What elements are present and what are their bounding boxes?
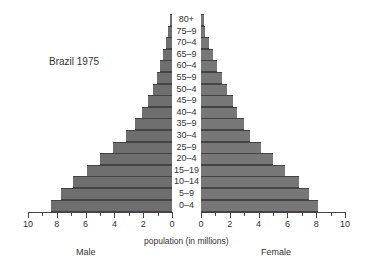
female-axis-tick xyxy=(345,212,346,218)
female-axis-tick xyxy=(316,212,317,218)
female-bar xyxy=(201,165,285,177)
age-group-label: 70–4 xyxy=(172,37,201,49)
female-axis-tick xyxy=(287,212,288,218)
age-group-label: 50–4 xyxy=(172,84,201,96)
age-group-label: 35–9 xyxy=(172,118,201,130)
female-tick-label: 4 xyxy=(249,219,269,229)
age-group-label: 80+ xyxy=(172,14,201,26)
male-axis-tick xyxy=(129,212,130,216)
female-axis-tick xyxy=(201,212,202,218)
male-bar xyxy=(87,165,172,177)
male-bar xyxy=(142,107,172,119)
male-bar xyxy=(148,95,172,107)
male-tick-label: 6 xyxy=(76,219,96,229)
female-bar xyxy=(201,142,261,154)
age-group-label: 10–14 xyxy=(172,176,201,188)
x-axis-label: population (in millions) xyxy=(144,236,229,246)
age-group-label: 25–9 xyxy=(172,142,201,154)
female-bar xyxy=(201,14,204,26)
female-bar xyxy=(201,188,309,200)
age-group-label: 30–4 xyxy=(172,130,201,142)
male-bar xyxy=(163,49,172,61)
female-tick-label: 2 xyxy=(220,219,240,229)
female-axis-tick xyxy=(273,212,274,216)
female-axis-tick xyxy=(331,212,332,216)
female-bar xyxy=(201,49,213,61)
male-axis-tick xyxy=(71,212,72,216)
female-bar xyxy=(201,84,227,96)
male-bar xyxy=(126,130,172,142)
male-tick-label: 2 xyxy=(133,219,153,229)
female-bar xyxy=(201,176,299,188)
age-group-label: 45–9 xyxy=(172,95,201,107)
male-axis-tick xyxy=(100,212,101,216)
age-group-label: 55–9 xyxy=(172,72,201,84)
chart-title: Brazil 1975 xyxy=(49,56,99,67)
male-tick-label: 8 xyxy=(47,219,67,229)
male-bar xyxy=(157,72,172,84)
male-label: Male xyxy=(76,247,96,257)
female-bar xyxy=(201,60,217,72)
female-bar xyxy=(201,95,233,107)
age-group-label: 20–4 xyxy=(172,153,201,165)
male-tick-label: 0 xyxy=(162,219,182,229)
male-axis-tick xyxy=(172,212,173,218)
female-axis-tick xyxy=(244,212,245,216)
female-bar xyxy=(201,153,273,165)
female-bar xyxy=(201,37,209,49)
age-group-label: 15–19 xyxy=(172,165,201,177)
male-axis-tick xyxy=(143,212,144,218)
male-axis-tick xyxy=(158,212,159,216)
age-group-label: 0–4 xyxy=(172,200,201,212)
male-tick-label: 10 xyxy=(18,219,38,229)
female-tick-label: 6 xyxy=(277,219,297,229)
male-bar xyxy=(61,188,172,200)
female-tick-label: 0 xyxy=(191,219,211,229)
female-axis-tick xyxy=(230,212,231,218)
female-tick-label: 10 xyxy=(335,219,355,229)
male-bar xyxy=(73,176,172,188)
male-bar xyxy=(113,142,172,154)
male-axis-tick xyxy=(114,212,115,218)
age-group-label: 5–9 xyxy=(172,188,201,200)
male-bar xyxy=(100,153,172,165)
female-axis-tick xyxy=(302,212,303,216)
male-axis-tick xyxy=(42,212,43,216)
male-bar xyxy=(153,84,172,96)
female-bar xyxy=(201,118,244,130)
female-bar xyxy=(201,72,222,84)
female-axis-tick xyxy=(215,212,216,216)
male-bar xyxy=(160,60,172,72)
male-axis-tick xyxy=(57,212,58,218)
age-group-label: 75–9 xyxy=(172,26,201,38)
female-axis-tick xyxy=(259,212,260,218)
male-axis-tick xyxy=(86,212,87,218)
male-axis-tick xyxy=(28,212,29,218)
age-group-label: 60–4 xyxy=(172,60,201,72)
male-bar xyxy=(135,118,172,130)
female-bar xyxy=(201,107,237,119)
male-bar xyxy=(51,200,172,212)
female-tick-label: 8 xyxy=(306,219,326,229)
female-bar xyxy=(201,200,318,212)
female-bar xyxy=(201,26,205,38)
age-group-label: 40–4 xyxy=(172,107,201,119)
female-bar xyxy=(201,130,250,142)
female-label: Female xyxy=(261,247,291,257)
male-tick-label: 4 xyxy=(104,219,124,229)
age-group-label: 65–9 xyxy=(172,49,201,61)
